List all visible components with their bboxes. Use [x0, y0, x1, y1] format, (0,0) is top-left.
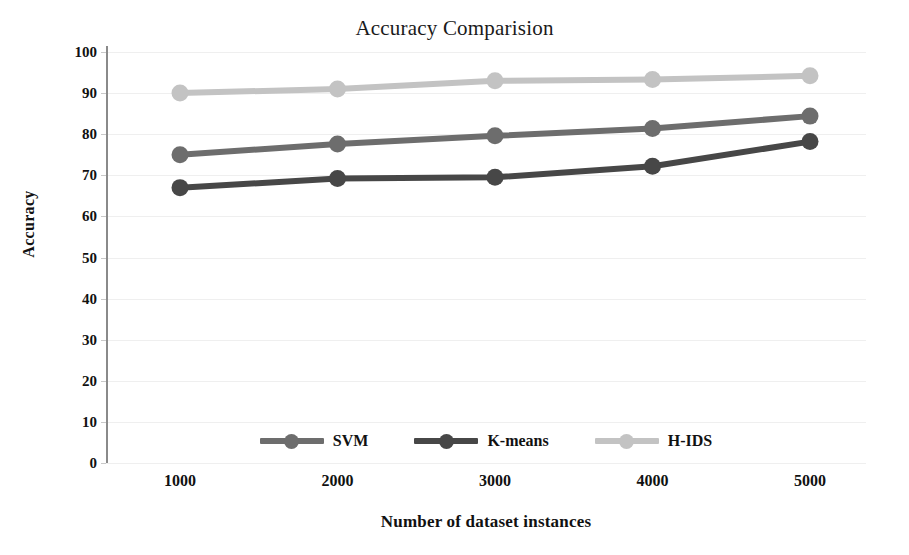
- data-point: [644, 120, 661, 137]
- legend-swatch-h-ids: [595, 433, 659, 449]
- y-tick-label: 80: [82, 126, 97, 143]
- legend-item-k-means[interactable]: K-means: [414, 432, 548, 450]
- x-tick-label: 2000: [322, 472, 354, 490]
- data-point: [644, 71, 661, 88]
- legend-label-svm: SVM: [333, 432, 369, 450]
- y-tick-label: 70: [82, 167, 97, 184]
- y-tick-label: 50: [82, 249, 97, 266]
- chart-title: Accuracy Comparision: [0, 16, 909, 41]
- data-point: [172, 146, 189, 163]
- y-tick-label: 60: [82, 208, 97, 225]
- x-tick-label: 5000: [794, 472, 826, 490]
- legend-marker-icon: [619, 434, 634, 449]
- y-tick-label: 10: [82, 413, 97, 430]
- series-plot: [106, 52, 866, 463]
- legend-swatch-k-means: [414, 433, 478, 449]
- y-axis-title: Accuracy: [20, 164, 38, 284]
- legend-label-k-means: K-means: [487, 432, 548, 450]
- y-tick-label: 0: [90, 455, 98, 472]
- y-tick-label: 100: [75, 44, 98, 61]
- series-h-ids: [172, 67, 819, 101]
- y-tick-label: 40: [82, 290, 97, 307]
- legend-swatch-svm: [260, 433, 324, 449]
- data-point: [487, 72, 504, 89]
- data-point: [329, 170, 346, 187]
- x-axis-title: Number of dataset instances: [106, 512, 866, 532]
- x-tick-label: 4000: [637, 472, 669, 490]
- data-point: [802, 67, 819, 84]
- y-tick-mark: [101, 463, 106, 464]
- y-tick-label: 20: [82, 372, 97, 389]
- data-point: [329, 80, 346, 97]
- data-point: [487, 169, 504, 186]
- gridline: [106, 463, 866, 464]
- legend-marker-icon: [284, 434, 299, 449]
- legend-marker-icon: [439, 434, 454, 449]
- x-tick-label: 1000: [164, 472, 196, 490]
- x-tick-label: 3000: [479, 472, 511, 490]
- y-tick-label: 90: [82, 85, 97, 102]
- legend-label-h-ids: H-IDS: [668, 432, 712, 450]
- data-point: [802, 133, 819, 150]
- chart-legend: SVMK-meansH-IDS: [106, 432, 866, 450]
- legend-item-h-ids[interactable]: H-IDS: [595, 432, 712, 450]
- data-point: [487, 127, 504, 144]
- data-point: [172, 85, 189, 102]
- legend-item-svm[interactable]: SVM: [260, 432, 369, 450]
- plot-area: 0102030405060708090100 10002000300040005…: [106, 52, 866, 463]
- data-point: [329, 136, 346, 153]
- y-tick-label: 30: [82, 331, 97, 348]
- data-point: [172, 179, 189, 196]
- data-point: [644, 158, 661, 175]
- accuracy-comparison-chart: Accuracy Comparision Accuracy 0102030405…: [0, 0, 909, 555]
- data-point: [802, 108, 819, 125]
